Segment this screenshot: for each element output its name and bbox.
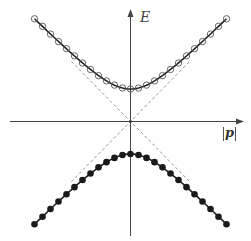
dispersion-diagram: E p	[0, 0, 251, 241]
filled-circle-marker	[119, 152, 126, 159]
filled-circle-marker	[31, 221, 38, 228]
filled-circle-marker	[111, 155, 118, 162]
filled-circle-marker	[159, 164, 166, 171]
axes	[10, 10, 243, 236]
x-axis-label-group: p	[224, 125, 236, 141]
filled-circle-marker	[183, 184, 190, 191]
filled-circle-marker	[55, 198, 62, 205]
filled-circle-marker	[79, 177, 86, 184]
filled-circle-marker	[215, 213, 222, 220]
origin-dot	[129, 120, 131, 122]
filled-circle-marker	[47, 206, 54, 213]
filled-circle-marker	[87, 170, 94, 177]
filled-circle-marker	[191, 191, 198, 198]
filled-circle-marker	[167, 170, 174, 177]
filled-circle-marker	[63, 191, 70, 198]
filled-circle-marker	[39, 213, 46, 220]
filled-circle-marker	[71, 184, 78, 191]
filled-circle-marker	[127, 151, 134, 158]
filled-circle-marker	[135, 152, 142, 159]
filled-circle-marker	[199, 198, 206, 205]
filled-circle-marker	[223, 221, 230, 228]
filled-circle-marker	[151, 159, 158, 166]
filled-circle-marker	[207, 206, 214, 213]
y-axis-label: E	[139, 9, 150, 25]
filled-circle-marker	[103, 159, 110, 166]
filled-circle-marker	[143, 155, 150, 162]
filled-circle-marker	[175, 177, 182, 184]
x-axis-label: p	[225, 125, 234, 140]
filled-circle-marker	[95, 164, 102, 171]
